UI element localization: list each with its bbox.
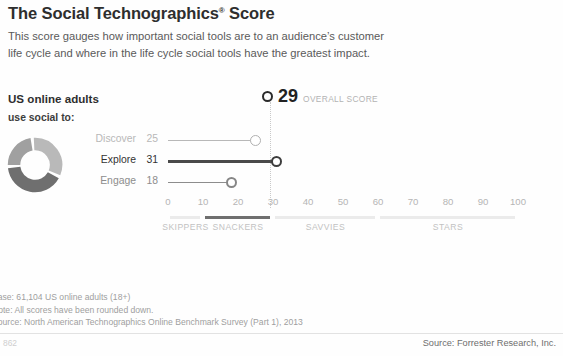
segment-band — [275, 216, 375, 219]
page-subtitle: This score gauges how important social t… — [8, 28, 528, 61]
x-axis-tick: 100 — [510, 196, 526, 207]
footnote-note: Note: All scores have been rounded down. — [0, 304, 552, 317]
metric-row-label: Engage — [68, 175, 136, 186]
x-axis-tick: 10 — [198, 196, 209, 207]
x-axis-tick: 50 — [338, 196, 349, 207]
page-title-tail: Score — [225, 4, 275, 22]
footer-source: Source: Forrester Research, Inc. — [423, 338, 556, 348]
metric-bar — [168, 160, 277, 163]
x-axis-tick: 30 — [268, 196, 279, 207]
x-axis-tick: 60 — [373, 196, 384, 207]
metric-row-track — [168, 151, 518, 172]
page-title-main: The Social Technographics — [8, 4, 219, 22]
metric-row: Discover25 — [0, 130, 563, 151]
footer-divider — [0, 333, 563, 334]
metric-row-track — [168, 172, 518, 193]
metric-row-track — [168, 130, 518, 151]
x-axis-tick: 40 — [303, 196, 314, 207]
metric-row: Engage18 — [0, 172, 563, 193]
segment-band-label: SKIPPERS — [162, 222, 209, 232]
metric-row-label: Discover — [68, 133, 136, 144]
overall-score-caption: OVERALL SCORE — [303, 89, 378, 104]
metric-row-value: 31 — [140, 154, 158, 165]
segment-band-label: SNACKERS — [213, 222, 264, 232]
page-title: The Social Technographics® Score — [8, 4, 274, 23]
footnote-base: Base: 61,104 US online adults (18+) — [0, 291, 552, 304]
slide-canvas: The Social Technographics® Score This sc… — [0, 0, 563, 356]
metric-row-value: 18 — [140, 175, 158, 186]
segment-band — [380, 216, 515, 219]
footnotes: Base: 61,104 US online adults (18+) Note… — [0, 291, 552, 329]
page-subtitle-line-2: life cycle and where in the life cycle s… — [8, 45, 528, 62]
segment-band — [170, 216, 200, 219]
overall-score-group: 29 OVERALL SCORE — [262, 87, 378, 105]
metric-bar — [168, 182, 231, 184]
metric-bar — [168, 140, 256, 142]
segment-band-label: STARS — [433, 222, 463, 232]
x-axis-tick: 20 — [233, 196, 244, 207]
metric-end-dot — [226, 177, 237, 188]
segment-band-label: SAVVIES — [306, 222, 345, 232]
x-axis-tick: 90 — [478, 196, 489, 207]
metric-end-dot — [250, 135, 261, 146]
x-axis-tick: 0 — [165, 196, 170, 207]
metric-row: Explore31 — [0, 151, 563, 172]
x-axis-tick: 70 — [408, 196, 419, 207]
page-number: 862 — [3, 338, 17, 348]
metric-row-label: Explore — [68, 154, 136, 165]
audience-subheading: use social to: — [8, 112, 74, 123]
footnote-source: Source: North American Technographics On… — [0, 316, 552, 329]
overall-score-value: 29 — [278, 87, 298, 105]
metric-row-value: 25 — [140, 133, 158, 144]
metric-end-dot — [271, 156, 282, 167]
page-subtitle-line-1: This score gauges how important social t… — [8, 28, 528, 45]
metric-rows: Discover25Explore31Engage18 — [0, 130, 563, 193]
x-axis-tick: 80 — [443, 196, 454, 207]
social-technographics-chart: US online adults use social to: 29 OVERA… — [0, 86, 563, 246]
x-axis: 0102030405060708090100 — [0, 196, 563, 210]
audience-heading: US online adults — [8, 92, 99, 105]
score-ring-icon — [262, 91, 273, 102]
segment-band — [205, 216, 270, 219]
